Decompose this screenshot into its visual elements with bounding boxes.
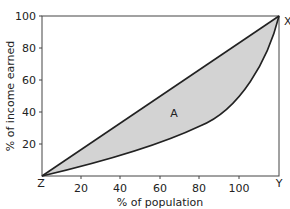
x-tick-60: 60 (153, 182, 167, 195)
y-tick-60: 60 (22, 74, 36, 87)
y-axis-title: % of income earned (4, 41, 17, 151)
y-tick-100: 100 (15, 10, 36, 23)
label-y: Y (275, 177, 283, 190)
y-tick-80: 80 (22, 42, 36, 55)
x-axis-title: % of population (117, 196, 204, 209)
y-tick-20: 20 (22, 138, 36, 151)
y-tick-40: 40 (22, 106, 36, 119)
x-tick-100: 100 (229, 182, 250, 195)
label-area-a: A (170, 107, 178, 120)
label-x: X (284, 15, 290, 28)
equality-line (42, 16, 279, 176)
label-z: Z (37, 177, 45, 190)
lorenz-chart: 100 80 60 40 20 20 40 60 80 100 Z X Y A … (0, 0, 290, 209)
x-tick-20: 20 (74, 182, 88, 195)
x-tick-40: 40 (113, 182, 127, 195)
x-tick-80: 80 (192, 182, 206, 195)
